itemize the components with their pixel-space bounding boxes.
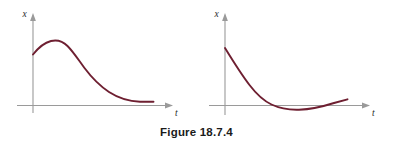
figure-caption: Figure 18.7.4 [0,126,393,138]
x-axis-label-right: t [372,108,375,118]
plot-left: x t [0,0,196,125]
y-axis-arrowhead-right [222,13,228,21]
curve-right [225,48,348,110]
plot-left-canvas: x t [0,0,196,125]
y-axis-label-right: x [214,9,220,19]
plot-right: x t [197,0,393,125]
x-axis-arrowhead-left [165,103,173,109]
y-axis-label-left: x [22,9,28,19]
figure-container: x t x t Figure 18.7.4 [0,0,393,150]
x-axis-label-left: t [175,108,178,118]
x-axis-arrowhead-right [362,103,370,109]
y-axis-arrowhead-left [30,13,36,21]
plot-right-canvas: x t [197,0,393,125]
plots-row: x t x t [0,0,393,125]
curve-left [33,40,154,101]
